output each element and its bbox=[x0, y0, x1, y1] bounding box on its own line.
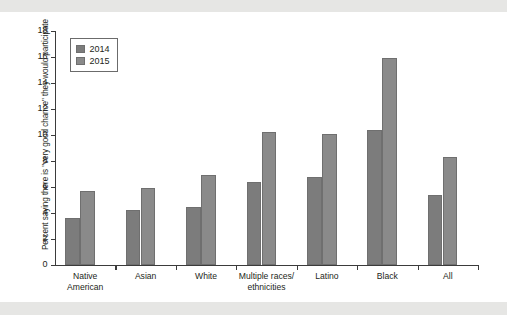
bar bbox=[322, 134, 337, 265]
y-tick: 10 bbox=[51, 135, 56, 136]
y-tick: 16 bbox=[51, 57, 56, 58]
legend-swatch-2014-icon bbox=[76, 45, 85, 54]
y-tick-label: 10 bbox=[37, 129, 47, 139]
y-tick-label: 18 bbox=[37, 25, 47, 35]
y-tick-label: 0 bbox=[42, 259, 47, 269]
bar bbox=[262, 132, 277, 265]
bar bbox=[443, 157, 458, 265]
legend-swatch-2015-icon bbox=[76, 57, 85, 66]
x-tick bbox=[115, 265, 116, 270]
x-tick bbox=[418, 265, 419, 270]
y-tick: 12 bbox=[51, 109, 56, 110]
y-tick-label: 2 bbox=[42, 233, 47, 243]
y-tick-label: 8 bbox=[42, 155, 47, 165]
y-tick-label: 4 bbox=[42, 207, 47, 217]
plot-area: 024681012141618 Native AmericanAsianWhit… bbox=[55, 31, 478, 265]
legend-item-2015: 2015 bbox=[76, 55, 110, 67]
x-tick bbox=[357, 265, 358, 270]
x-tick bbox=[478, 265, 479, 270]
legend-label-2015: 2015 bbox=[90, 56, 110, 66]
y-tick: 14 bbox=[51, 83, 56, 84]
x-tick bbox=[297, 265, 298, 270]
bar bbox=[428, 195, 443, 265]
bar bbox=[186, 207, 201, 266]
y-tick-label: 6 bbox=[42, 181, 47, 191]
bar bbox=[80, 191, 95, 265]
y-tick-label: 14 bbox=[37, 77, 47, 87]
y-tick-label: 16 bbox=[37, 51, 47, 61]
legend-label-2014: 2014 bbox=[90, 44, 110, 54]
legend: 2014 2015 bbox=[70, 38, 118, 72]
y-tick: 18 bbox=[51, 31, 56, 32]
bar bbox=[201, 175, 216, 265]
y-tick: 8 bbox=[51, 161, 56, 162]
x-tick bbox=[176, 265, 177, 270]
y-tick: 0 bbox=[51, 265, 56, 266]
bar bbox=[367, 130, 382, 265]
y-tick: 4 bbox=[51, 213, 56, 214]
category-label: White bbox=[176, 271, 236, 282]
category-label: Black bbox=[357, 271, 417, 282]
legend-item-2014: 2014 bbox=[76, 43, 110, 55]
category-label: All bbox=[418, 271, 478, 282]
y-tick: 2 bbox=[51, 239, 56, 240]
category-label: Latino bbox=[297, 271, 357, 282]
x-tick bbox=[236, 265, 237, 270]
bar bbox=[382, 58, 397, 265]
y-tick: 6 bbox=[51, 187, 56, 188]
category-label: Multiple races/ ethnicities bbox=[236, 271, 296, 292]
bar bbox=[126, 210, 141, 265]
figure: Percent saying there is "very good chanc… bbox=[0, 0, 507, 315]
y-tick-label: 12 bbox=[37, 103, 47, 113]
bar bbox=[247, 182, 262, 265]
category-label: Native American bbox=[55, 271, 115, 292]
bar bbox=[65, 218, 80, 265]
chart-canvas: Percent saying there is "very good chanc… bbox=[8, 12, 497, 302]
bar bbox=[307, 177, 322, 265]
bar bbox=[141, 188, 156, 265]
y-axis-line bbox=[55, 31, 56, 266]
category-label: Asian bbox=[115, 271, 175, 282]
x-axis-line bbox=[55, 265, 479, 266]
